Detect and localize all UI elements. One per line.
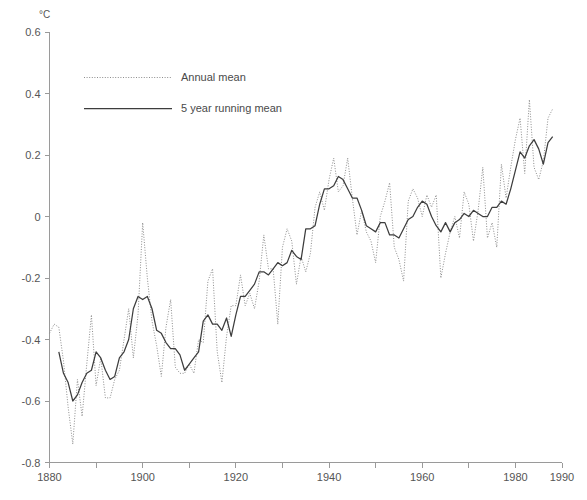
- series-line-5-year-running-mean: [59, 137, 553, 401]
- y-tick-label: -0.2: [22, 272, 41, 284]
- data-series-group: [50, 100, 553, 444]
- y-tick-label: 0.6: [25, 26, 40, 38]
- x-tick-label: 1940: [317, 471, 341, 483]
- x-tick-label: 1980: [503, 471, 527, 483]
- temperature-anomaly-chart: 0.60.40.20-0.2-0.4-0.6-0.8 °C 1880190019…: [0, 0, 587, 500]
- x-tick-label: 1960: [410, 471, 434, 483]
- y-tick-label: -0.6: [22, 395, 41, 407]
- legend-label-5-year-running-mean: 5 year running mean: [181, 102, 282, 114]
- y-tick-label: -0.8: [22, 457, 41, 469]
- x-axis: 1880190019201940196019801990: [37, 463, 574, 483]
- x-tick-label: 1900: [130, 471, 154, 483]
- y-axis: 0.60.40.20-0.2-0.4-0.6-0.8 °C: [22, 9, 51, 469]
- series-line-annual-mean: [50, 100, 553, 444]
- chart-canvas: 0.60.40.20-0.2-0.4-0.6-0.8 °C 1880190019…: [0, 0, 587, 500]
- y-tick-label: 0.4: [25, 88, 40, 100]
- y-tick-group: [45, 32, 50, 463]
- legend: Annual mean 5 year running mean: [84, 71, 282, 114]
- x-tick-label-group: 1880190019201940196019801990: [37, 471, 574, 483]
- y-tick-label: 0: [34, 211, 40, 223]
- y-axis-unit-label: °C: [39, 9, 50, 20]
- legend-label-annual-mean: Annual mean: [181, 71, 246, 83]
- x-tick-label: 1880: [37, 471, 61, 483]
- x-tick-label: 1920: [224, 471, 248, 483]
- y-tick-label: -0.4: [22, 334, 41, 346]
- y-tick-label-group: 0.60.40.20-0.2-0.4-0.6-0.8: [22, 26, 41, 469]
- x-tick-group: [50, 463, 563, 468]
- y-tick-label: 0.2: [25, 149, 40, 161]
- x-tick-label: 1990: [550, 471, 574, 483]
